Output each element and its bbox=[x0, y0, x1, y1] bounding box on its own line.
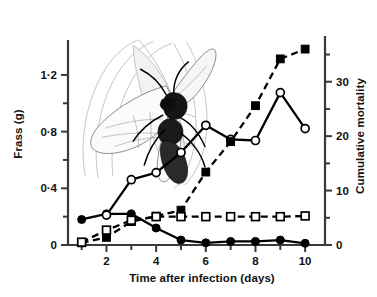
data-point-open-circle bbox=[102, 211, 110, 219]
data-point-filled-circle bbox=[227, 237, 235, 245]
data-point-filled-circle bbox=[276, 236, 284, 244]
data-point-filled-square bbox=[276, 55, 284, 63]
y-axis-right-tick-label: 20 bbox=[336, 130, 349, 142]
chart-figure: Frass (g) Cumulative mortality Time afte… bbox=[0, 0, 377, 297]
x-axis-tick-label: 4 bbox=[153, 255, 159, 267]
data-point-open-square bbox=[152, 213, 160, 221]
data-point-open-circle bbox=[127, 176, 135, 184]
x-axis-tick-label: 8 bbox=[252, 255, 258, 267]
y-axis-left-tick-label: 0·8 bbox=[40, 126, 57, 138]
x-axis-tick-label: 2 bbox=[103, 255, 109, 267]
data-point-filled-square bbox=[252, 102, 260, 110]
plot-area bbox=[0, 0, 377, 297]
parasitoid-wasp-on-host-drawing bbox=[83, 40, 216, 189]
y-axis-right-tick-label: 0 bbox=[336, 239, 342, 251]
data-point-filled-square bbox=[202, 168, 210, 176]
x-axis-tick-label: 10 bbox=[299, 255, 312, 267]
data-point-filled-square bbox=[301, 45, 309, 53]
data-point-open-square bbox=[227, 213, 235, 221]
series-line-0 bbox=[82, 214, 305, 243]
data-point-filled-circle bbox=[177, 236, 185, 244]
y-axis-right-tick-label: 30 bbox=[336, 76, 349, 88]
data-point-filled-square bbox=[227, 138, 235, 146]
data-point-filled-circle bbox=[152, 224, 160, 232]
y-axis-left-tick-label: 1·2 bbox=[40, 69, 57, 81]
data-point-filled-circle bbox=[78, 215, 86, 223]
data-point-open-circle bbox=[152, 169, 160, 177]
data-point-filled-circle bbox=[251, 237, 259, 245]
data-point-open-square bbox=[252, 213, 260, 221]
series-line-3 bbox=[82, 216, 305, 242]
data-point-open-circle bbox=[251, 137, 259, 145]
data-point-open-square bbox=[127, 216, 135, 224]
data-point-filled-circle bbox=[202, 239, 210, 247]
y-axis-left-tick-label: 0·4 bbox=[40, 182, 57, 194]
data-point-open-square bbox=[78, 238, 86, 246]
data-point-filled-circle bbox=[301, 239, 309, 247]
x-axis-tick-label: 6 bbox=[203, 255, 209, 267]
y-axis-left-tick-label: 0 bbox=[51, 239, 57, 251]
data-point-open-square bbox=[301, 212, 309, 220]
y-axis-right-tick-label: 10 bbox=[336, 185, 349, 197]
data-point-open-square bbox=[103, 226, 111, 234]
data-point-open-circle bbox=[202, 121, 210, 129]
data-point-open-circle bbox=[177, 148, 185, 156]
data-point-open-circle bbox=[301, 125, 309, 133]
data-point-open-square bbox=[177, 213, 185, 221]
data-point-open-square bbox=[276, 213, 284, 221]
data-point-open-circle bbox=[276, 89, 284, 97]
data-point-open-square bbox=[202, 213, 210, 221]
